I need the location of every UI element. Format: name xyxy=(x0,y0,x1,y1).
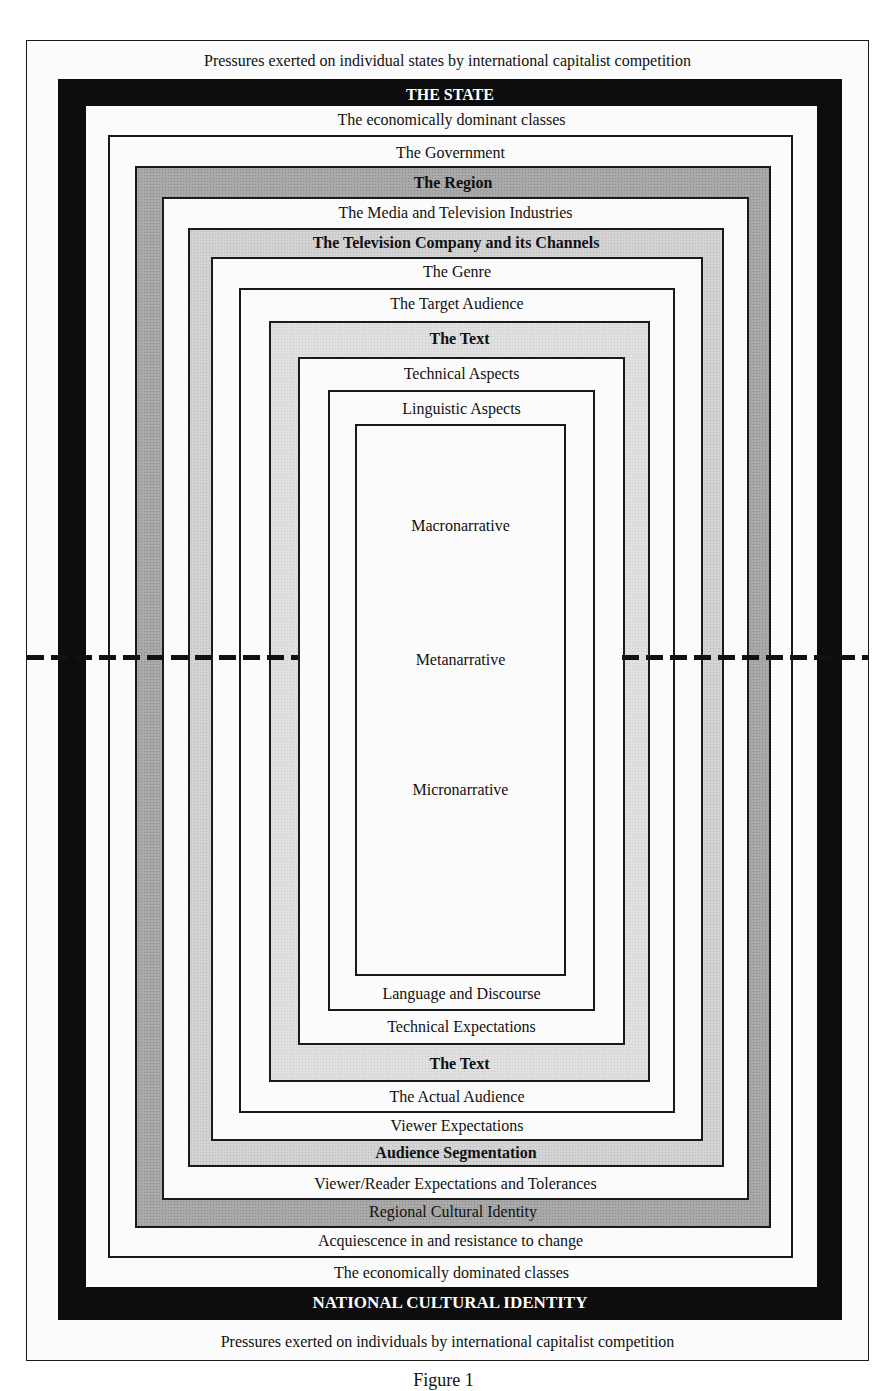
classes-top-label: The economically dominant classes xyxy=(86,110,817,130)
technical-bottom-label: Technical Expectations xyxy=(300,1017,623,1037)
region-top-label: The Region xyxy=(137,173,769,193)
target-audience-bottom-label: The Actual Audience xyxy=(241,1087,673,1107)
outer-top-label: Pressures exerted on individual states b… xyxy=(27,51,868,71)
media-top-label: The Media and Television Industries xyxy=(164,203,747,223)
government-bottom-label: Acquiescence in and resistance to change xyxy=(110,1231,791,1251)
linguistic-bottom-label: Language and Discourse xyxy=(330,984,593,1004)
government-top-label: The Government xyxy=(110,143,791,163)
text-bottom-label: The Text xyxy=(271,1054,648,1074)
tv-company-bottom-label: Audience Segmentation xyxy=(190,1143,722,1163)
technical-top-label: Technical Aspects xyxy=(300,364,623,384)
text-top-label: The Text xyxy=(271,329,648,349)
core-box: Macronarrative Metanarrative Micronarrat… xyxy=(355,424,566,976)
state-top-label: THE STATE xyxy=(60,85,840,105)
target-audience-top-label: The Target Audience xyxy=(241,294,673,314)
genre-bottom-label: Viewer Expectations xyxy=(213,1116,701,1136)
dashed-divider-left xyxy=(27,655,298,660)
dashed-divider-right xyxy=(622,655,869,660)
micronarrative-label: Micronarrative xyxy=(357,780,564,800)
macronarrative-label: Macronarrative xyxy=(357,516,564,536)
classes-bottom-label: The economically dominated classes xyxy=(86,1263,817,1283)
state-bottom-label: NATIONAL CULTURAL IDENTITY xyxy=(60,1293,840,1313)
figure-caption: Figure 1 xyxy=(0,1370,887,1391)
metanarrative-label: Metanarrative xyxy=(357,650,564,670)
linguistic-top-label: Linguistic Aspects xyxy=(330,399,593,419)
media-bottom-label: Viewer/Reader Expectations and Tolerance… xyxy=(164,1174,747,1194)
region-bottom-label: Regional Cultural Identity xyxy=(137,1202,769,1222)
genre-top-label: The Genre xyxy=(213,262,701,282)
outer-bottom-label: Pressures exerted on individuals by inte… xyxy=(27,1332,868,1352)
tv-company-top-label: The Television Company and its Channels xyxy=(190,233,722,253)
